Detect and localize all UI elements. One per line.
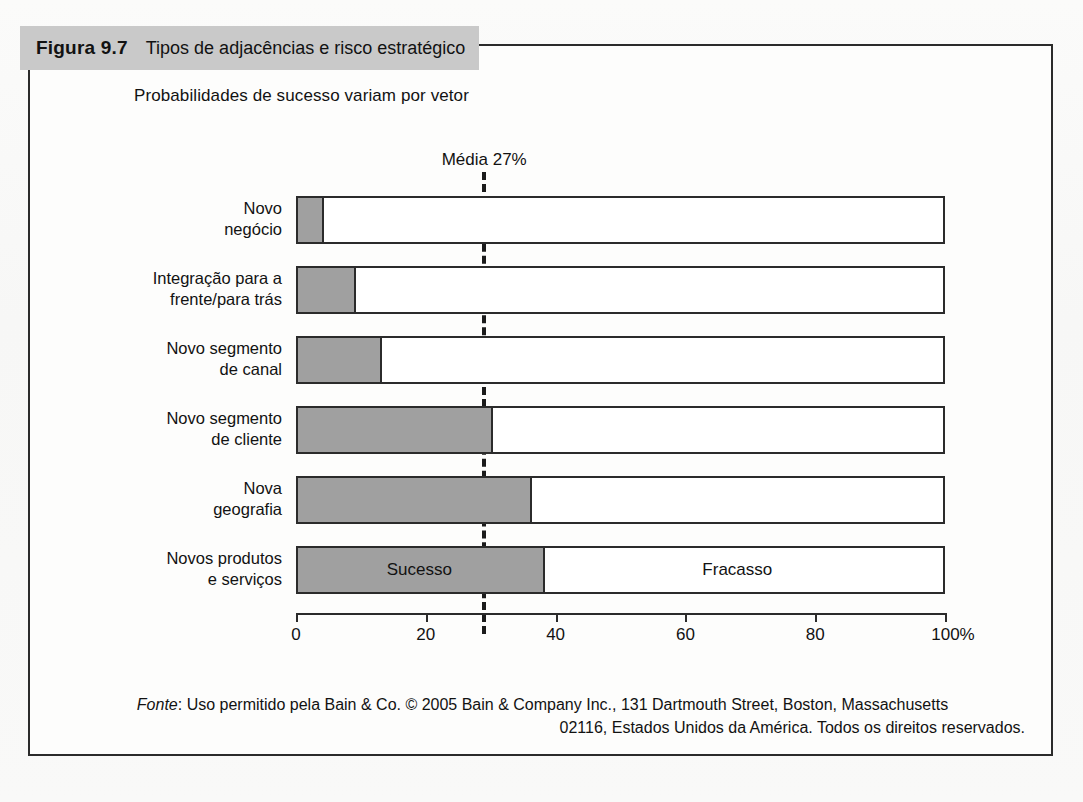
x-axis-tick-label: 60: [676, 625, 695, 645]
x-axis-tick-label: 80: [806, 625, 825, 645]
x-axis-tick: [815, 613, 817, 622]
x-axis-tick-label: 40: [546, 625, 565, 645]
x-axis-tick: [556, 613, 558, 622]
category-label: Novo segmento de canal: [52, 338, 282, 380]
category-label: Novos produtos e serviços: [52, 548, 282, 590]
bar-row: [296, 406, 945, 454]
series-label-sucesso: Sucesso: [387, 560, 452, 580]
category-label: Nova geografia: [52, 478, 282, 520]
figure-caption: Tipos de adjacências e risco estratégico: [146, 38, 466, 59]
category-label: Novo segmento de cliente: [52, 408, 282, 450]
x-axis-tick-label: 20: [416, 625, 435, 645]
bar-row: [296, 196, 945, 244]
source-line-2: 02116, Estados Unidos da América. Todos …: [60, 717, 1025, 740]
chart-plot-area: Média 27%Novo negócioIntegração para a f…: [0, 0, 1083, 802]
series-label-fracasso: Fracasso: [702, 560, 772, 580]
bar-segment-sucesso: [298, 338, 382, 382]
bar-row: [296, 266, 945, 314]
bar-segment-sucesso: [298, 478, 532, 522]
x-axis-tick-label: 0: [291, 625, 300, 645]
bar-segment-sucesso: [298, 198, 324, 242]
mean-label: Média 27%: [442, 150, 527, 170]
category-label: Novo negócio: [52, 198, 282, 240]
x-axis-tick: [426, 613, 428, 622]
bar-segment-sucesso: [298, 408, 493, 452]
figure-header-banner: Figura 9.7 Tipos de adjacências e risco …: [20, 26, 479, 70]
source-line-1: : Uso permitido pela Bain & Co. © 2005 B…: [178, 696, 948, 713]
source-prefix: Fonte: [137, 696, 178, 713]
figure-number: Figura 9.7: [36, 37, 128, 59]
bar-segment-sucesso: [298, 268, 356, 312]
source-note: Fonte: Uso permitido pela Bain & Co. © 2…: [60, 694, 1025, 739]
category-label: Integração para a frente/para trás: [52, 268, 282, 310]
x-axis-tick: [685, 613, 687, 622]
bar-row: [296, 476, 945, 524]
bar-row: [296, 336, 945, 384]
x-axis-line: [296, 613, 947, 615]
x-axis-tick: [296, 613, 298, 622]
x-axis-tick-label: 100%: [931, 625, 974, 645]
x-axis-tick: [945, 613, 947, 622]
